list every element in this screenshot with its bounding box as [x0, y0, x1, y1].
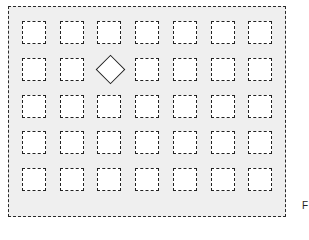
square-opening — [173, 168, 197, 191]
square-opening — [97, 95, 121, 118]
square-opening — [135, 168, 159, 191]
square-opening — [22, 131, 46, 154]
square-opening — [60, 95, 84, 118]
square-opening — [135, 58, 159, 81]
square-opening — [248, 168, 272, 191]
square-opening — [173, 95, 197, 118]
square-opening — [135, 21, 159, 44]
square-opening — [60, 168, 84, 191]
square-opening — [173, 21, 197, 44]
square-opening — [211, 131, 235, 154]
square-opening — [248, 21, 272, 44]
square-opening — [211, 21, 235, 44]
square-opening — [248, 58, 272, 81]
square-opening — [22, 95, 46, 118]
square-opening — [97, 168, 121, 191]
square-opening — [135, 131, 159, 154]
square-opening — [173, 131, 197, 154]
square-opening — [97, 21, 121, 44]
square-opening — [60, 21, 84, 44]
square-opening — [173, 58, 197, 81]
square-opening — [211, 168, 235, 191]
square-opening — [135, 95, 159, 118]
square-opening — [248, 95, 272, 118]
corner-label: F — [302, 200, 308, 211]
square-opening — [211, 58, 235, 81]
square-opening — [60, 131, 84, 154]
square-opening — [22, 58, 46, 81]
square-opening — [211, 95, 235, 118]
square-opening — [22, 21, 46, 44]
square-opening — [97, 131, 121, 154]
square-opening — [248, 131, 272, 154]
square-opening — [60, 58, 84, 81]
square-opening — [22, 168, 46, 191]
